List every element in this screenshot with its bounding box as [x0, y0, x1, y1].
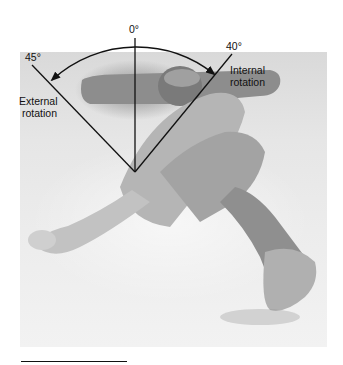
angle-overlay — [0, 0, 343, 365]
external-angle-label: 45° — [25, 52, 41, 63]
external-rotation-label-line2: rotation — [22, 108, 57, 119]
range-of-motion-figure: 0° 45° 40° External rotation Internal ro… — [0, 0, 343, 365]
footnote-divider — [21, 361, 127, 362]
internal-rotation-line — [135, 54, 232, 172]
neutral-angle-label: 0° — [129, 24, 139, 35]
external-arc-arrow — [52, 47, 135, 80]
external-rotation-label-line1: External — [19, 96, 58, 107]
internal-rotation-label-line1: Internal — [230, 65, 265, 76]
internal-arc-arrow — [135, 47, 214, 74]
internal-rotation-label-line2: rotation — [230, 77, 265, 88]
internal-angle-label: 40° — [226, 41, 242, 52]
